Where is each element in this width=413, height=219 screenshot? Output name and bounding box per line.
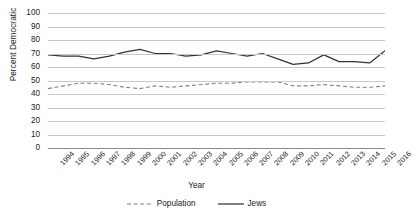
legend-label-population: Population xyxy=(157,199,196,208)
y-tick-50: 50 xyxy=(31,77,40,85)
gridline-100 xyxy=(48,13,385,14)
y-tick-100: 100 xyxy=(26,9,40,17)
gridlines xyxy=(48,13,385,148)
x-tick-1999: 1999 xyxy=(135,150,152,167)
y-tick-90: 90 xyxy=(31,23,40,31)
x-tick-2002: 2002 xyxy=(181,150,198,167)
y-tick-60: 60 xyxy=(31,63,40,71)
x-tick-2011: 2011 xyxy=(319,150,336,167)
gridline-50 xyxy=(48,81,385,82)
x-tick-2016: 2016 xyxy=(396,150,413,167)
gridline-40 xyxy=(48,94,385,95)
legend-swatch-solid-icon xyxy=(218,200,244,208)
x-tick-2014: 2014 xyxy=(365,150,382,167)
x-tick-2015: 2015 xyxy=(380,150,397,167)
gridline-10 xyxy=(48,135,385,136)
y-tick-20: 20 xyxy=(31,117,40,125)
legend-entry-population[interactable]: Population xyxy=(127,199,196,208)
gridline-80 xyxy=(48,40,385,41)
x-tick-2003: 2003 xyxy=(197,150,214,167)
x-tick-2006: 2006 xyxy=(243,150,260,167)
x-tick-2009: 2009 xyxy=(289,150,306,167)
x-tick-1996: 1996 xyxy=(89,150,106,167)
x-tick-2004: 2004 xyxy=(212,150,229,167)
gridline-90 xyxy=(48,27,385,28)
y-tick-30: 30 xyxy=(31,104,40,112)
y-tick-0: 0 xyxy=(35,144,40,152)
legend-swatch-dashed-icon xyxy=(127,200,153,208)
plot-area xyxy=(48,13,385,148)
x-tick-2012: 2012 xyxy=(335,150,352,167)
x-axis-tick-labels: 1994199519961997199819992000200120022003… xyxy=(48,150,385,180)
y-tick-10: 10 xyxy=(31,131,40,139)
y-axis-tick-labels: 1009080706050403020100 xyxy=(0,13,44,148)
y-tick-80: 80 xyxy=(31,36,40,44)
legend-entry-jews[interactable]: Jews xyxy=(218,199,267,208)
x-tick-2001: 2001 xyxy=(166,150,183,167)
chart-legend: Population Jews xyxy=(0,199,393,208)
x-tick-1998: 1998 xyxy=(120,150,137,167)
x-axis-title: Year xyxy=(0,181,393,190)
y-tick-70: 70 xyxy=(31,50,40,58)
legend-label-jews: Jews xyxy=(248,199,267,208)
gridline-60 xyxy=(48,67,385,68)
gridline-20 xyxy=(48,121,385,122)
x-tick-2005: 2005 xyxy=(227,150,244,167)
x-tick-2008: 2008 xyxy=(273,150,290,167)
gridline-30 xyxy=(48,108,385,109)
gridline-70 xyxy=(48,54,385,55)
y-tick-40: 40 xyxy=(31,90,40,98)
gridline-0 xyxy=(48,148,385,149)
x-tick-1995: 1995 xyxy=(74,150,91,167)
